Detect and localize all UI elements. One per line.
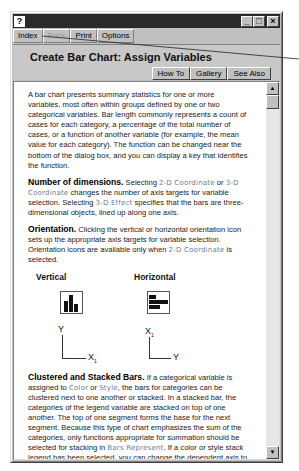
topic-header: Create Bar Chart: Assign Variables How T… bbox=[13, 44, 280, 80]
help-window: ? _ □ × Index Back Print Options Create … bbox=[10, 11, 283, 463]
maximize-button[interactable]: □ bbox=[253, 16, 265, 27]
intro-paragraph: A bar chart presents summary statistics … bbox=[28, 90, 248, 171]
horizontal-bar-icon[interactable] bbox=[147, 291, 170, 314]
help-toolbar: Index Back Print Options bbox=[13, 29, 280, 43]
term-2d-coordinate: 2-D Coordinate bbox=[169, 246, 225, 254]
window-controls: _ □ × bbox=[241, 16, 279, 27]
back-button[interactable]: Back bbox=[43, 29, 71, 43]
term-style: Style bbox=[99, 384, 118, 392]
vertical-y-axis-label: Y bbox=[58, 324, 64, 334]
gallery-button[interactable]: Gallery bbox=[190, 67, 227, 80]
title-bar[interactable]: ? _ □ × bbox=[13, 14, 280, 28]
orientation-paragraph: Orientation. Clicking the vertical or ho… bbox=[28, 224, 248, 265]
vertical-bar-icon[interactable] bbox=[60, 291, 83, 314]
vertical-label: Vertical bbox=[36, 272, 66, 282]
term-bars-represent: Bars Represent bbox=[107, 444, 163, 452]
x-subscript: 1 bbox=[94, 357, 97, 363]
horizontal-label: Horizontal bbox=[134, 272, 176, 282]
page-title: Create Bar Chart: Assign Variables bbox=[30, 51, 212, 63]
options-button[interactable]: Options bbox=[97, 29, 135, 43]
print-button[interactable]: Print bbox=[70, 29, 96, 43]
dimensions-paragraph: Number of dimensions. Selecting 2-D Coor… bbox=[28, 177, 248, 218]
scroll-thumb[interactable] bbox=[266, 95, 279, 109]
close-button[interactable]: × bbox=[267, 16, 279, 27]
minimize-button[interactable]: _ bbox=[241, 16, 253, 27]
topic-text: A bar chart presents summary statistics … bbox=[28, 90, 248, 460]
horizontal-axis-icon bbox=[149, 337, 171, 359]
dimensions-heading: Number of dimensions. bbox=[28, 177, 124, 187]
horizontal-y-axis-label: Y bbox=[173, 352, 179, 362]
vertical-x-axis-label: X1 bbox=[88, 352, 97, 366]
term-color: Color bbox=[69, 384, 88, 392]
topic-content: A bar chart presents summary statistics … bbox=[13, 81, 280, 460]
text-run: or bbox=[215, 178, 226, 187]
help-icon: ? bbox=[14, 16, 25, 27]
text-run: or bbox=[88, 383, 99, 392]
orientation-figure: Vertical Horizontal Y bbox=[28, 272, 248, 366]
clustered-heading: Clustered and Stacked Bars. bbox=[28, 372, 145, 382]
topic-buttons: How To Gallery See Also bbox=[152, 67, 271, 80]
clustered-paragraph: Clustered and Stacked Bars. If a categor… bbox=[28, 372, 248, 461]
text-run: Selecting bbox=[124, 178, 159, 187]
term-3d-effect: 3-D Effect bbox=[96, 199, 133, 207]
scroll-down-button[interactable]: ▼ bbox=[266, 446, 279, 459]
see-also-button[interactable]: See Also bbox=[227, 67, 271, 80]
text-run: , the bars for categories can be cluster… bbox=[28, 383, 242, 453]
term-2d-coordinate: 2-D Coordinate bbox=[159, 179, 215, 187]
index-button[interactable]: Index bbox=[13, 29, 43, 43]
vertical-scrollbar[interactable]: ▲ ▼ bbox=[266, 82, 279, 459]
scroll-up-button[interactable]: ▲ bbox=[266, 82, 279, 95]
orientation-heading: Orientation. bbox=[28, 224, 76, 234]
vertical-axis-icon bbox=[62, 335, 86, 359]
how-to-button[interactable]: How To bbox=[152, 67, 191, 80]
